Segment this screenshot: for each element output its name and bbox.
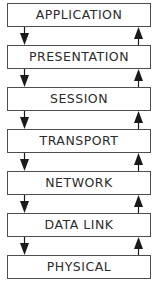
layer-box-physical: PHYSICAL bbox=[7, 255, 151, 279]
layer-label-presentation: PRESENTATION bbox=[29, 51, 129, 64]
layer-box-transport: TRANSPORT bbox=[7, 129, 151, 153]
layer-label-application: APPLICATION bbox=[36, 9, 123, 22]
osi-layer-diagram: APPLICATION PRESENTATION SESSION bbox=[0, 0, 159, 294]
layer-box-session: SESSION bbox=[7, 87, 151, 111]
layer-box-data-link: DATA LINK bbox=[7, 213, 151, 237]
arrow-down-icon bbox=[19, 195, 30, 213]
layer-label-physical: PHYSICAL bbox=[47, 261, 111, 274]
layer-label-network: NETWORK bbox=[45, 177, 112, 190]
layer-label-data-link: DATA LINK bbox=[45, 219, 114, 232]
arrow-down-icon bbox=[19, 111, 30, 129]
arrow-down-icon bbox=[19, 153, 30, 171]
arrow-down-icon bbox=[19, 69, 30, 87]
arrow-up-icon bbox=[133, 195, 144, 213]
arrow-down-icon bbox=[19, 27, 30, 45]
layer-label-transport: TRANSPORT bbox=[40, 135, 119, 148]
layer-box-presentation: PRESENTATION bbox=[7, 45, 151, 69]
arrow-down-icon bbox=[19, 237, 30, 255]
arrow-up-icon bbox=[133, 111, 144, 129]
arrow-up-icon bbox=[133, 69, 144, 87]
layer-label-session: SESSION bbox=[50, 93, 108, 106]
arrow-up-icon bbox=[133, 153, 144, 171]
layer-box-application: APPLICATION bbox=[7, 3, 151, 27]
arrow-up-icon bbox=[133, 237, 144, 255]
layer-box-network: NETWORK bbox=[7, 171, 151, 195]
arrow-up-icon bbox=[133, 27, 144, 45]
